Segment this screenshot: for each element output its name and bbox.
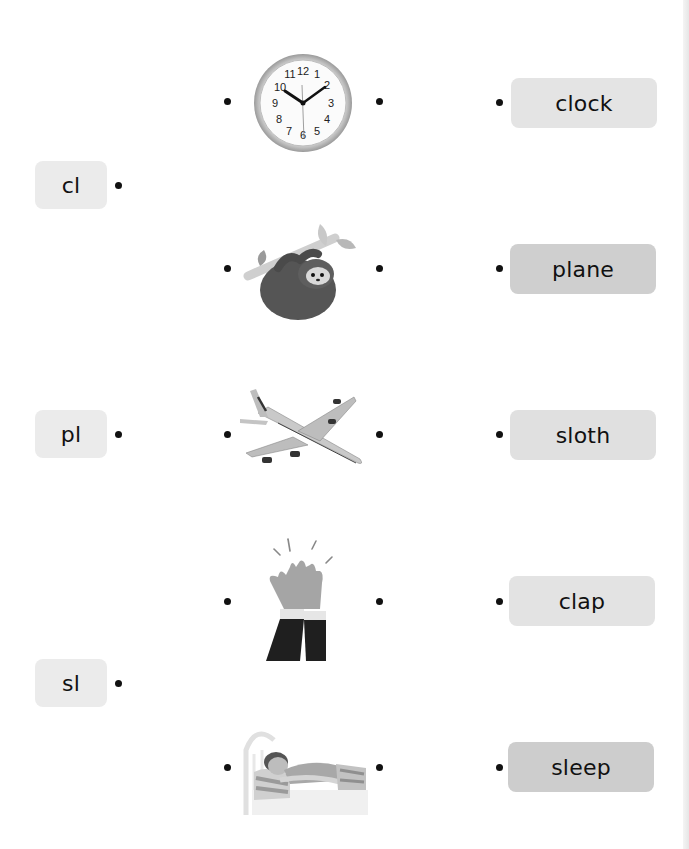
match-dot-clock-left[interactable]	[224, 98, 231, 105]
match-dot-plane-left[interactable]	[224, 431, 231, 438]
svg-text:7: 7	[286, 125, 292, 137]
match-dot-clock-right[interactable]	[376, 98, 383, 105]
match-dot-clap-word[interactable]	[496, 598, 503, 605]
word-box-plane: plane	[510, 244, 656, 294]
sloth-picture	[240, 218, 360, 323]
word-box-clap: clap	[509, 576, 655, 626]
blend-box-cl: cl	[35, 161, 107, 209]
sleep-picture	[240, 720, 370, 815]
svg-text:3: 3	[328, 97, 334, 109]
clock-picture: 12 1 2 3 4 5 6 7 8 9 10 11	[253, 53, 353, 153]
word-box-sleep: sleep	[508, 742, 654, 792]
word-box-sloth: sloth	[510, 410, 656, 460]
match-dot-pl[interactable]	[115, 431, 122, 438]
match-dot-sleep-right[interactable]	[376, 764, 383, 771]
svg-text:2: 2	[324, 79, 330, 91]
match-dot-plane-word[interactable]	[496, 265, 503, 272]
match-dot-clap-right[interactable]	[376, 598, 383, 605]
match-dot-sloth-left[interactable]	[224, 265, 231, 272]
match-dot-sleep-word[interactable]	[496, 764, 503, 771]
word-label: clock	[555, 91, 613, 116]
page-edge	[683, 0, 689, 849]
blend-label: sl	[62, 671, 80, 696]
match-dot-sl[interactable]	[115, 680, 122, 687]
match-dot-clock-word[interactable]	[496, 99, 503, 106]
match-dot-sleep-left[interactable]	[224, 764, 231, 771]
match-dot-sloth-word[interactable]	[496, 431, 503, 438]
svg-text:11: 11	[284, 68, 295, 80]
word-box-clock: clock	[511, 78, 657, 128]
blend-box-sl: sl	[35, 659, 107, 707]
svg-text:1: 1	[314, 68, 320, 80]
blend-label: cl	[62, 173, 81, 198]
match-dot-sloth-right[interactable]	[376, 265, 383, 272]
svg-text:4: 4	[324, 113, 330, 125]
match-dot-clap-left[interactable]	[224, 598, 231, 605]
clap-picture	[260, 537, 346, 662]
blend-label: pl	[61, 422, 81, 447]
blend-box-pl: pl	[35, 410, 107, 458]
svg-text:6: 6	[300, 129, 306, 141]
word-label: clap	[559, 589, 605, 614]
svg-text:5: 5	[314, 125, 320, 137]
word-label: sloth	[556, 423, 611, 448]
svg-text:8: 8	[276, 113, 282, 125]
plane-picture	[238, 383, 368, 471]
match-dot-plane-right[interactable]	[376, 431, 383, 438]
word-label: plane	[552, 257, 614, 282]
svg-text:9: 9	[272, 97, 278, 109]
svg-text:12: 12	[297, 65, 309, 77]
match-dot-cl[interactable]	[115, 182, 122, 189]
word-label: sleep	[551, 755, 611, 780]
